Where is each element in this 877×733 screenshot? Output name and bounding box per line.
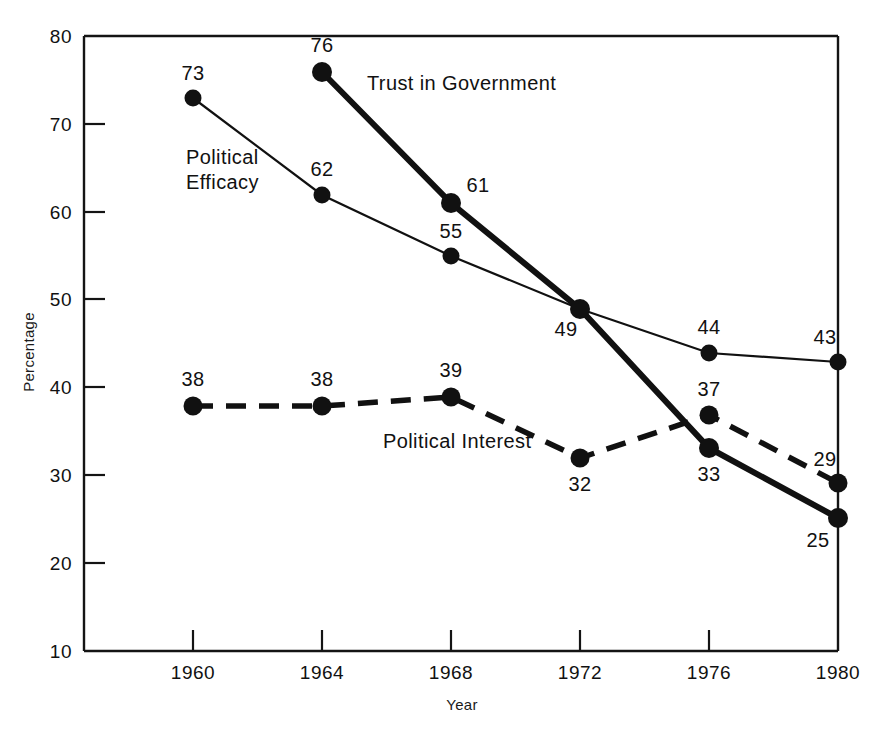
y-tick-label: 70 xyxy=(50,114,72,135)
data-point-label: 32 xyxy=(568,473,591,495)
data-point xyxy=(571,449,590,468)
annotation-political-interest: Political Interest xyxy=(383,430,531,452)
chart-container: 10 20 30 40 50 60 70 80 1960 1964 1968 1… xyxy=(0,0,877,733)
data-point xyxy=(829,474,848,493)
series-line-political-efficacy xyxy=(193,98,838,362)
x-axis-ticks xyxy=(193,630,709,651)
y-tick-label: 40 xyxy=(50,377,72,398)
data-point-label: 38 xyxy=(310,368,333,390)
annotation-line-1: Political xyxy=(186,146,259,168)
data-point xyxy=(443,248,460,265)
y-tick-labels: 10 20 30 40 50 60 70 80 xyxy=(50,26,72,662)
data-point xyxy=(700,406,719,425)
x-tick-label: 1980 xyxy=(816,662,860,683)
data-point xyxy=(699,438,719,458)
y-tick-label: 10 xyxy=(50,641,72,662)
x-axis-title: Year xyxy=(446,696,478,713)
data-point xyxy=(312,62,332,82)
y-tick-label: 60 xyxy=(50,202,72,223)
data-point-label: 73 xyxy=(181,62,204,84)
series-political-efficacy: 73 62 55 49 44 43 xyxy=(181,62,846,371)
data-point-label: 25 xyxy=(806,529,829,551)
data-point xyxy=(185,90,202,107)
data-point xyxy=(313,397,332,416)
data-point xyxy=(701,345,718,362)
x-tick-label: 1964 xyxy=(300,662,344,683)
data-point-label: 37 xyxy=(697,378,720,400)
y-tick-label: 30 xyxy=(50,465,72,486)
axis-frame xyxy=(84,36,838,651)
data-point-label: 55 xyxy=(439,220,462,242)
data-point xyxy=(314,187,331,204)
data-point-label: 43 xyxy=(813,326,836,348)
data-point-label: 44 xyxy=(697,316,720,338)
y-tick-label: 50 xyxy=(50,289,72,310)
data-point-label: 76 xyxy=(310,34,333,56)
x-tick-labels: 1960 1964 1968 1972 1976 1980 xyxy=(171,662,860,683)
data-point xyxy=(442,388,461,407)
annotation-trust-in-government: Trust in Government xyxy=(367,72,556,94)
data-point-label: 62 xyxy=(310,158,333,180)
annotation-line-2: Efficacy xyxy=(186,171,259,193)
data-point xyxy=(184,397,203,416)
data-point-label: 61 xyxy=(466,174,489,196)
data-point xyxy=(830,354,847,371)
annotation-political-efficacy: Political Efficacy xyxy=(186,146,259,193)
y-tick-label: 80 xyxy=(50,26,72,47)
data-point-label: 39 xyxy=(439,359,462,381)
data-point-label: 33 xyxy=(697,463,720,485)
x-tick-label: 1976 xyxy=(687,662,731,683)
y-axis-title: Percentage xyxy=(20,312,37,392)
x-tick-label: 1960 xyxy=(171,662,215,683)
data-point xyxy=(441,193,461,213)
x-tick-label: 1972 xyxy=(558,662,602,683)
data-point xyxy=(570,299,590,319)
series-political-interest: 38 38 39 32 37 29 xyxy=(181,359,847,495)
x-tick-label: 1968 xyxy=(429,662,473,683)
data-point xyxy=(828,508,848,528)
y-axis-ticks xyxy=(84,124,105,563)
data-point-label: 29 xyxy=(813,448,836,470)
line-chart: 10 20 30 40 50 60 70 80 1960 1964 1968 1… xyxy=(0,0,877,733)
y-tick-label: 20 xyxy=(50,553,72,574)
data-point-label: 38 xyxy=(181,368,204,390)
